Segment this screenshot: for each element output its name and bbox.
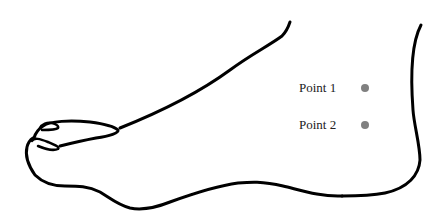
foot-diagram: Point 1 Point 2: [0, 0, 445, 219]
point-1-marker[interactable]: [361, 84, 369, 92]
instep-line: [120, 22, 290, 128]
toenail-top: [40, 123, 58, 130]
heel-line: [342, 25, 421, 196]
foot-outline-drawing: [0, 0, 445, 219]
point-1-label: Point 1: [299, 81, 336, 94]
point-2-label: Point 2: [299, 118, 336, 131]
sole-line: [26, 138, 342, 209]
toenail-lower: [32, 139, 58, 150]
point-2-marker[interactable]: [361, 121, 369, 129]
